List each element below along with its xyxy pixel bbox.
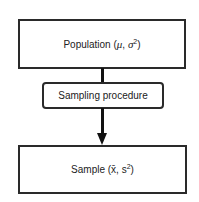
connector-line: [101, 68, 104, 83]
sampling-procedure-box: Sampling procedure: [42, 82, 164, 109]
arrow-shaft: [101, 108, 104, 134]
sample-label: Sample (x̄, s2): [71, 164, 134, 175]
sample-box: Sample (x̄, s2): [18, 145, 187, 194]
population-box: Population (μ, σ2): [18, 19, 186, 69]
population-label: Population (μ, σ2): [63, 38, 140, 50]
sampling-procedure-label: Sampling procedure: [58, 90, 148, 101]
arrow-head-icon: [97, 133, 107, 145]
